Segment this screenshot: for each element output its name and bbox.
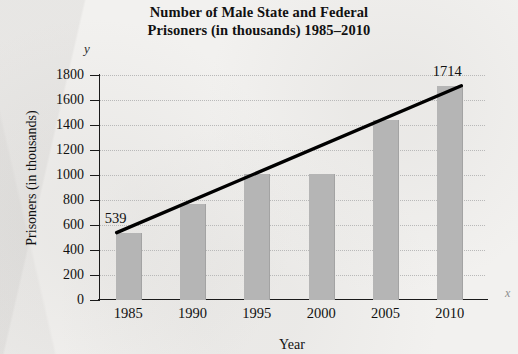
y-tick-mark <box>90 200 100 201</box>
y-tick-label: 0 <box>32 293 84 307</box>
y-tick-mark <box>90 250 100 251</box>
chart-figure: Number of Male State and Federal Prisone… <box>0 0 518 354</box>
plot-area: 5391714 <box>99 75 485 300</box>
y-tick-mark <box>90 100 100 101</box>
y-tick-label: 1000 <box>32 168 84 182</box>
y-tick-label: 600 <box>32 218 84 232</box>
y-tick-mark <box>90 150 100 151</box>
x-tick-label: 2010 <box>418 303 482 323</box>
x-axis-letter: x <box>505 286 510 301</box>
x-tick-label: 1990 <box>161 303 225 323</box>
y-tick-mark <box>90 125 100 126</box>
y-tick-label: 1200 <box>32 143 84 157</box>
y-axis-letter: y <box>84 41 90 57</box>
x-tick-label: 2005 <box>354 303 418 323</box>
x-tick-label: 1985 <box>96 303 160 323</box>
x-tick-label: 2000 <box>289 303 353 323</box>
y-tick-label: 800 <box>32 193 84 207</box>
last-bar-value: 1714 <box>433 64 462 79</box>
x-axis-title: Year <box>99 336 485 353</box>
y-tick-mark <box>90 275 100 276</box>
y-tick-mark <box>90 175 100 176</box>
y-tick-label: 1600 <box>32 93 84 107</box>
trend-line <box>99 75 485 300</box>
y-tick-mark <box>90 225 100 226</box>
y-tick-mark <box>90 75 100 76</box>
trend-line-segment <box>117 86 462 233</box>
y-axis-tick-labels: 020040060080010001200140016001800 <box>32 0 84 354</box>
x-axis-tick-labels: 198519901995200020052010 <box>99 303 485 325</box>
y-tick-label: 400 <box>32 243 84 257</box>
y-tick-label: 200 <box>32 268 84 282</box>
first-bar-value: 539 <box>105 211 127 226</box>
y-tick-label: 1400 <box>32 118 84 132</box>
y-tick-label: 1800 <box>32 68 84 82</box>
y-tick-mark <box>90 300 100 301</box>
x-tick-label: 1995 <box>225 303 289 323</box>
